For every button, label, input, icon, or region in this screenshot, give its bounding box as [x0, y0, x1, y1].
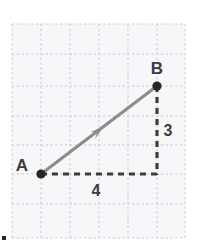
vertical-length-label: 3 — [164, 122, 173, 139]
scan-artifact-mark — [2, 236, 6, 240]
vector-figure: A B 4 3 — [0, 0, 197, 252]
point-b-label: B — [151, 59, 163, 78]
point-a-marker — [36, 169, 45, 178]
figure-canvas: A B 4 3 — [0, 0, 197, 252]
horizontal-length-label: 4 — [92, 182, 101, 199]
point-a-label: A — [16, 156, 28, 175]
point-b-marker — [152, 81, 161, 90]
